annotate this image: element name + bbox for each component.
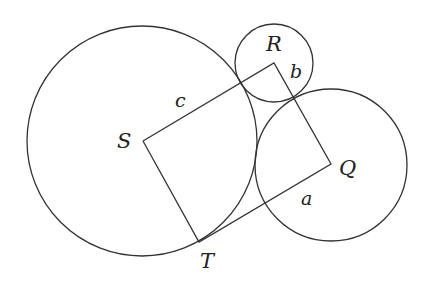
circle-q [255,89,407,241]
label-vertex-r: R [265,32,282,56]
label-side-a: a [301,187,312,209]
geometry-diagram: S R Q T c b a [0,0,432,282]
label-side-c: c [175,89,186,111]
circle-s [27,26,257,256]
label-vertex-q: Q [339,156,356,180]
label-side-b: b [290,60,302,82]
label-vertex-t: T [200,249,216,273]
label-vertex-s: S [117,129,131,153]
